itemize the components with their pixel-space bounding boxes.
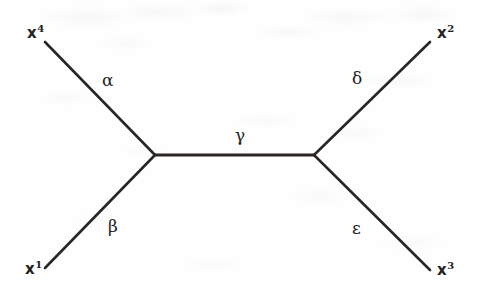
endpoint-label-x3: x3: [437, 261, 454, 278]
endpoint-superscript-x2: 2: [447, 23, 454, 34]
edge-label-beta: β: [108, 218, 118, 235]
endpoint-superscript-x3: 3: [447, 260, 454, 271]
endpoint-base-x1: x: [25, 260, 35, 278]
endpoint-label-x1: x1: [25, 260, 42, 277]
edge-delta: [314, 42, 430, 155]
endpoint-label-x2: x2: [437, 24, 454, 41]
diagram-figure: α β γ δ ε x4 x1 x2 x3: [0, 0, 481, 289]
edge-epsilon: [314, 155, 430, 270]
edge-beta: [45, 155, 155, 268]
edge-label-alpha: α: [102, 72, 113, 89]
endpoint-base-x3: x: [437, 261, 447, 279]
edge-label-epsilon: ε: [352, 220, 361, 237]
endpoint-superscript-x4: 4: [37, 23, 44, 34]
edge-label-delta: δ: [352, 70, 362, 87]
edge-alpha: [45, 42, 155, 155]
endpoint-label-x4: x4: [27, 24, 44, 41]
endpoint-base-x4: x: [27, 24, 37, 42]
endpoint-base-x2: x: [437, 24, 447, 42]
endpoint-superscript-x1: 1: [35, 259, 42, 270]
edge-label-gamma: γ: [235, 127, 245, 144]
